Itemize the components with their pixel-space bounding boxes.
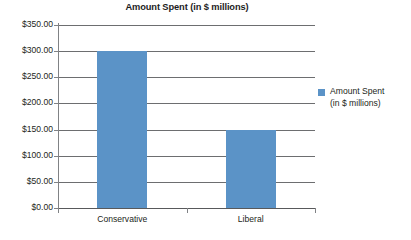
y-axis-tick	[54, 25, 59, 26]
legend-label: Amount Spent (in $ millions)	[330, 86, 411, 109]
y-axis-labels: $350.00$300.00$250.00$200.00$150.00$100.…	[0, 0, 53, 240]
x-axis-category-label: Liberal	[187, 214, 316, 224]
chart-title: Amount Spent (in $ millions)	[58, 2, 316, 12]
legend-label-line-2: (in $ millions)	[330, 98, 411, 110]
y-axis-tick-label: $50.00	[1, 176, 53, 186]
y-axis-tick	[54, 103, 59, 104]
y-axis-tick-label: $300.00	[1, 45, 53, 55]
y-axis-tick	[54, 156, 59, 157]
y-axis-tick-label: $350.00	[1, 19, 53, 29]
legend-color-swatch	[318, 89, 325, 96]
bar-chart: Amount Spent (in $ millions) $350.00$300…	[0, 0, 411, 240]
y-axis-tick	[54, 77, 59, 78]
y-axis-tick	[54, 51, 59, 52]
y-axis-tick	[54, 130, 59, 131]
plot-area	[58, 25, 315, 208]
x-axis-category-label: Conservative	[58, 214, 187, 224]
y-axis-tick-label: $100.00	[1, 150, 53, 160]
x-axis-tick	[58, 208, 59, 213]
y-axis-tick-label: $250.00	[1, 71, 53, 81]
bar	[97, 51, 147, 208]
y-axis-tick	[54, 182, 59, 183]
y-axis-tick-label: $150.00	[1, 124, 53, 134]
x-axis-tick	[187, 208, 188, 213]
x-axis-tick	[315, 208, 316, 213]
bar	[226, 130, 276, 208]
y-axis-tick-label: $200.00	[1, 97, 53, 107]
gridline	[58, 25, 315, 26]
legend-label-line-1: Amount Spent	[330, 86, 411, 98]
y-axis-tick-label: $0.00	[1, 202, 53, 212]
